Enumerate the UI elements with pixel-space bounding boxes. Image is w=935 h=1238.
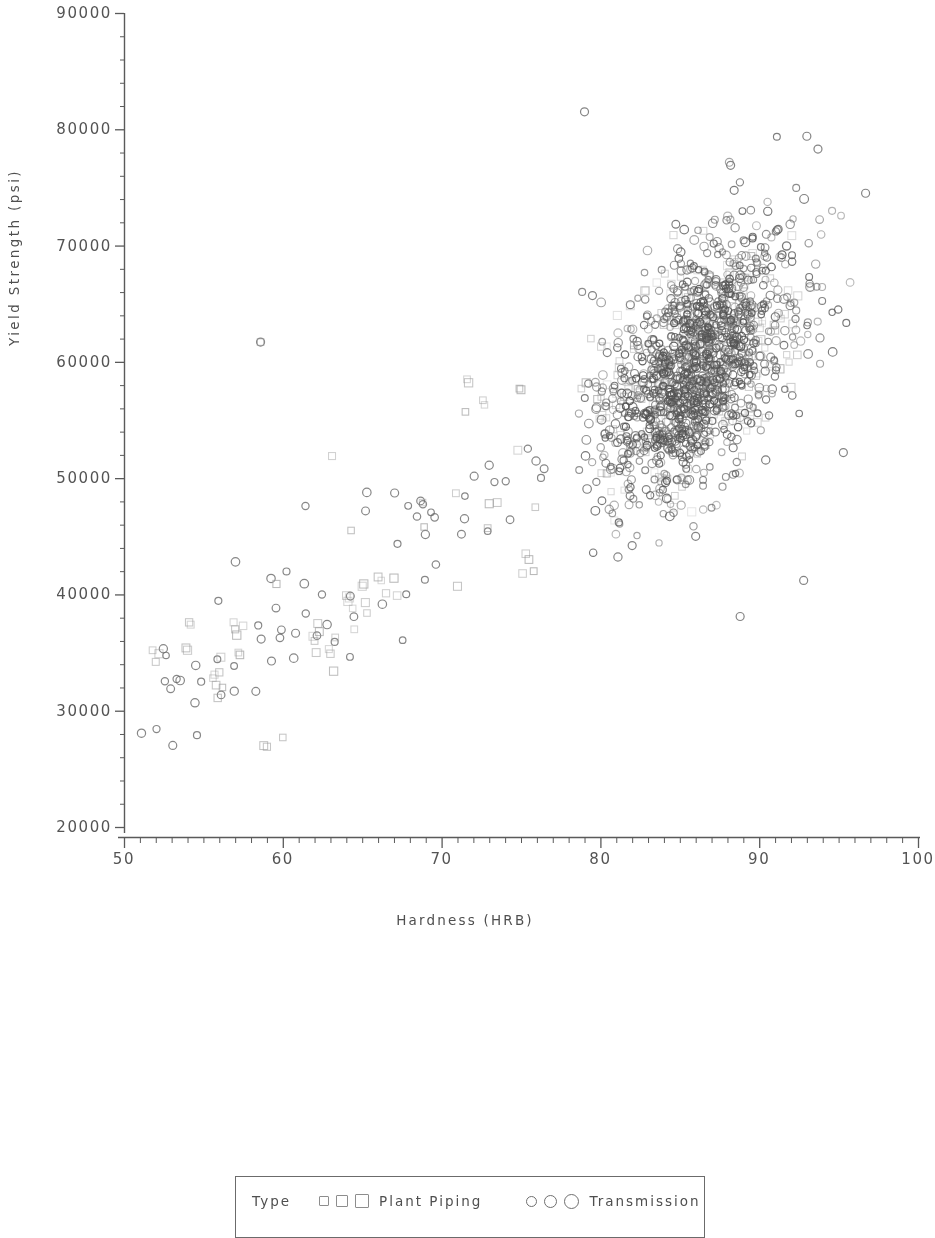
y-axis-title-text: Yield Strength (psi) [6, 318, 22, 346]
square-marker-small-icon [319, 1196, 329, 1206]
y-tick-label: 80000 [6, 120, 112, 138]
x-tick-label: 100 [901, 850, 934, 868]
circle-marker-small-icon [526, 1196, 537, 1207]
y-tick-label: 60000 [6, 353, 112, 371]
x-tick-label: 50 [113, 850, 135, 868]
y-tick-label: 40000 [6, 585, 112, 603]
legend-entry-transmission[interactable]: Transmission [526, 1193, 700, 1209]
legend-title: Type [252, 1193, 291, 1209]
x-tick-label: 80 [589, 850, 611, 868]
square-marker-medium-icon [336, 1195, 348, 1207]
y-axis-title: Yield Strength (psi) [6, 318, 22, 346]
x-tick-label: 90 [748, 850, 770, 868]
x-axis-title-text: Hardness (HRB) [396, 912, 534, 928]
x-tick-label: 60 [272, 850, 294, 868]
legend-label-plant-piping: Plant Piping [379, 1193, 482, 1209]
legend-marker-circles [526, 1194, 579, 1209]
y-tick-label: 90000 [6, 4, 112, 22]
x-axis-tick-labels: 5060708090100 [0, 850, 930, 880]
legend-label-transmission: Transmission [589, 1193, 700, 1209]
circle-marker-medium-icon [544, 1195, 557, 1208]
circle-marker-large-icon [564, 1194, 579, 1209]
legend-marker-squares [319, 1194, 369, 1208]
x-axis-title: Hardness (HRB) [0, 912, 930, 928]
legend: Type Plant Piping Transmission [235, 1176, 705, 1238]
y-tick-label: 30000 [6, 702, 112, 720]
x-tick-label: 70 [430, 850, 452, 868]
square-marker-large-icon [355, 1194, 369, 1208]
y-tick-label: 50000 [6, 469, 112, 487]
legend-entry-plant-piping[interactable]: Plant Piping [319, 1193, 482, 1209]
legend-row: Type Plant Piping Transmission [236, 1177, 706, 1225]
y-tick-label: 20000 [6, 818, 112, 836]
